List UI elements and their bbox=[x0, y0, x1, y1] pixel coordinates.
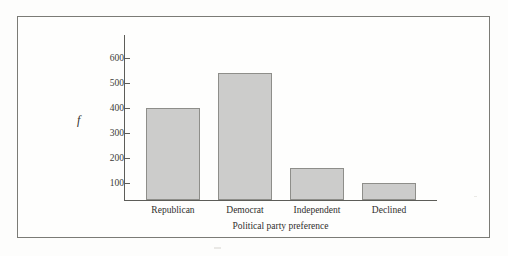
figure-container: f 600 500 400 300 200 100 R bbox=[0, 0, 508, 256]
bar-republican bbox=[146, 108, 200, 200]
y-axis-label: f bbox=[77, 113, 80, 128]
bar-declined bbox=[362, 183, 416, 200]
bar-independent bbox=[290, 168, 344, 200]
y-tick-label-500: 500 bbox=[78, 79, 124, 89]
y-tick-400 bbox=[124, 108, 130, 109]
x-tick-label-declined: Declined bbox=[359, 205, 419, 215]
y-tick-100 bbox=[124, 183, 130, 184]
scan-speckle bbox=[474, 196, 477, 197]
bar-democrat bbox=[218, 73, 272, 200]
y-tick-label-300: 300 bbox=[78, 129, 124, 139]
y-tick-label-600: 600 bbox=[78, 54, 124, 64]
y-tick-300 bbox=[124, 133, 130, 134]
plot-area: f 600 500 400 300 200 100 R bbox=[0, 0, 508, 256]
x-tick-label-independent: Independent bbox=[286, 205, 348, 215]
y-tick-600 bbox=[124, 58, 130, 59]
scan-speckle bbox=[214, 247, 221, 249]
y-tick-label-400: 400 bbox=[78, 104, 124, 114]
x-tick-label-republican: Republican bbox=[143, 205, 203, 215]
y-tick-label-100: 100 bbox=[78, 179, 124, 189]
x-axis-line bbox=[124, 200, 437, 201]
x-tick-label-democrat: Democrat bbox=[215, 205, 275, 215]
x-axis-caption: Political party preference bbox=[124, 221, 437, 231]
y-axis-line bbox=[124, 35, 125, 201]
y-tick-label-200: 200 bbox=[78, 154, 124, 164]
y-tick-200 bbox=[124, 158, 130, 159]
y-tick-500 bbox=[124, 83, 130, 84]
